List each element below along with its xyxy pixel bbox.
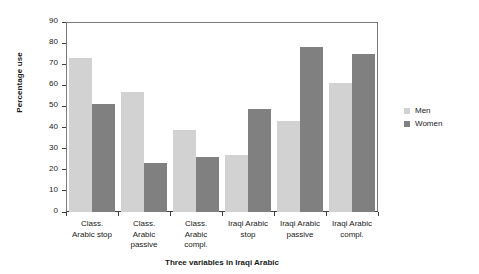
bar-women-3 — [196, 157, 219, 212]
x-tick-mark — [274, 212, 275, 216]
y-tick-label: 30 — [49, 143, 58, 152]
x-tick-mark — [378, 212, 379, 216]
y-tick-label: 50 — [49, 100, 58, 109]
x-tick-mark — [222, 212, 223, 216]
y-tick-label: 60 — [49, 79, 58, 88]
bar-women-5 — [300, 47, 323, 212]
legend-label: Women — [415, 119, 442, 128]
bar-women-1 — [92, 104, 115, 212]
bar-men-3 — [173, 130, 196, 212]
x-tick-mark — [170, 212, 171, 216]
legend-swatch-icon — [404, 108, 410, 114]
y-tick-label: 90 — [49, 16, 58, 25]
y-tick-label: 80 — [49, 37, 58, 46]
legend-item-men: Men — [404, 104, 442, 117]
legend-swatch-icon — [404, 121, 410, 127]
bar-women-4 — [248, 109, 271, 212]
y-tick-label: 10 — [49, 185, 58, 194]
x-axis-title: Three variables in Iraqi Arabic — [66, 258, 378, 267]
y-tick-label: 20 — [49, 164, 58, 173]
legend: MenWomen — [404, 104, 442, 130]
y-tick-label: 70 — [49, 58, 58, 67]
x-tick-mark — [66, 212, 67, 216]
bar-men-1 — [69, 58, 92, 212]
y-tick-label: 0 — [54, 206, 58, 215]
y-axis-title: Percentage use — [15, 28, 24, 138]
bars-layer — [66, 22, 378, 212]
bar-women-2 — [144, 163, 167, 212]
legend-item-women: Women — [404, 117, 442, 130]
legend-label: Men — [415, 106, 431, 115]
bar-men-4 — [225, 155, 248, 212]
bar-women-6 — [352, 54, 375, 212]
x-axis-category-label: Iraqi Arabic compl. — [316, 219, 388, 240]
bar-men-2 — [121, 92, 144, 212]
x-tick-mark — [326, 212, 327, 216]
y-tick-label: 40 — [49, 122, 58, 131]
bar-men-6 — [329, 83, 352, 212]
bar-chart: Percentage use 0102030405060708090 Class… — [0, 0, 479, 274]
x-tick-mark — [118, 212, 119, 216]
bar-men-5 — [277, 121, 300, 212]
